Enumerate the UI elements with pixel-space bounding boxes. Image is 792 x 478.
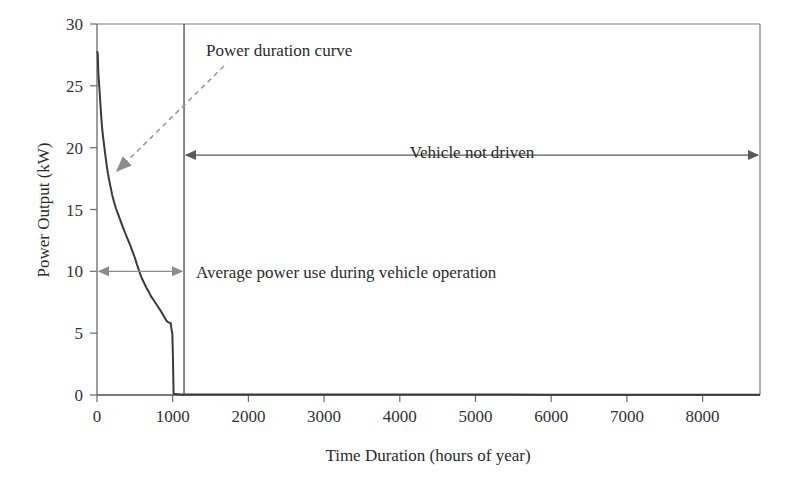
- x-tick-label-7000: 7000: [610, 407, 644, 426]
- y-tick-label-0: 0: [75, 386, 84, 405]
- x-tick-label-5000: 5000: [459, 407, 493, 426]
- y-tick-label-5: 5: [75, 324, 84, 343]
- y-axis-tick-labels: 0 5 10 15 20 25 30: [66, 15, 83, 405]
- power-duration-curve-line: [97, 51, 760, 394]
- y-axis-title: Power Output (kW): [34, 142, 53, 277]
- figure-page: 0 5 10 15 20 25 30: [0, 0, 792, 478]
- power-duration-curve-label: Power duration curve: [206, 41, 352, 60]
- x-tick-label-2000: 2000: [231, 407, 265, 426]
- plot-frame: [97, 24, 760, 395]
- x-axis-ticks: [97, 395, 703, 402]
- y-axis-ticks: [90, 24, 97, 395]
- x-axis-tick-labels: 0 1000 2000 3000 4000 5000 6000 7000 800…: [93, 407, 720, 426]
- y-tick-label-20: 20: [66, 139, 83, 158]
- x-tick-label-8000: 8000: [686, 407, 720, 426]
- x-axis-title: Time Duration (hours of year): [325, 446, 530, 465]
- power-duration-chart: 0 5 10 15 20 25 30: [0, 0, 792, 478]
- average-power-use-label: Average power use during vehicle operati…: [196, 263, 497, 282]
- x-tick-label-6000: 6000: [534, 407, 568, 426]
- y-tick-label-15: 15: [66, 201, 83, 220]
- x-tick-label-1000: 1000: [156, 407, 190, 426]
- chart-svg: 0 5 10 15 20 25 30: [0, 0, 792, 478]
- y-tick-label-25: 25: [66, 77, 83, 96]
- vehicle-not-driven-label: Vehicle not driven: [410, 143, 535, 162]
- x-tick-label-4000: 4000: [383, 407, 417, 426]
- x-tick-label-0: 0: [93, 407, 102, 426]
- y-tick-label-10: 10: [66, 262, 83, 281]
- y-tick-label-30: 30: [66, 15, 83, 34]
- x-tick-label-3000: 3000: [307, 407, 341, 426]
